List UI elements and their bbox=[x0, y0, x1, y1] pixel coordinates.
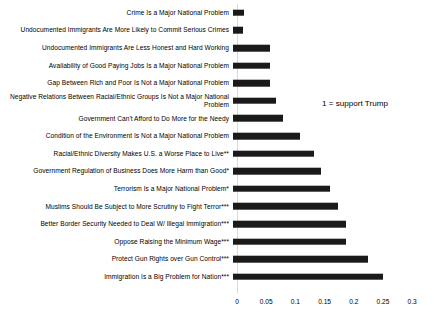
x-tick-label: 0.15 bbox=[318, 297, 331, 306]
bar bbox=[233, 203, 338, 210]
x-tick-label: 0.1 bbox=[291, 297, 300, 306]
category-label: Condition of the Environment Is Not a Ma… bbox=[0, 132, 233, 140]
bar-track bbox=[233, 250, 442, 268]
bar bbox=[233, 27, 243, 34]
chart-row: Availability of Good Paying Jobs Is a Ma… bbox=[0, 57, 442, 75]
category-label: Gap Between Rich and Poor Is Not a Major… bbox=[0, 79, 233, 87]
chart-row: Undocumented Immigrants Are More Likely … bbox=[0, 22, 442, 40]
chart-row: Undocumented Immigrants Are Less Honest … bbox=[0, 39, 442, 57]
bar bbox=[233, 97, 276, 104]
bar-track bbox=[233, 145, 442, 163]
bar-rows: Crime Is a Major National Problem Undocu… bbox=[0, 4, 442, 286]
bar-track bbox=[233, 127, 442, 145]
bar bbox=[233, 115, 283, 122]
chart-row: Condition of the Environment Is Not a Ma… bbox=[0, 127, 442, 145]
category-label: Better Border Security Needed to Deal W/… bbox=[0, 220, 233, 228]
category-label: Government Regulation of Business Does M… bbox=[0, 167, 233, 175]
bar bbox=[233, 221, 346, 228]
support-trump-annotation: 1 = support Trump bbox=[322, 99, 388, 109]
category-label: Muslims Should Be Subject to More Scruti… bbox=[0, 203, 233, 211]
bar bbox=[233, 238, 346, 245]
category-label: Protect Gun Rights over Gun Control*** bbox=[0, 255, 233, 263]
chart-row: Protect Gun Rights over Gun Control*** bbox=[0, 250, 442, 268]
category-label: Oppose Raising the Minimum Wage*** bbox=[0, 238, 233, 246]
bar-track bbox=[233, 22, 442, 40]
chart-row: Racial/Ethnic Diversity Makes U.S. a Wor… bbox=[0, 145, 442, 163]
bar bbox=[233, 10, 244, 17]
chart-row: Crime Is a Major National Problem bbox=[0, 4, 442, 22]
bar bbox=[233, 45, 270, 52]
category-label: Terrorism Is a Major National Problem* bbox=[0, 185, 233, 193]
x-tick-label: 0.05 bbox=[260, 297, 273, 306]
category-label: Government Can't Afford to Do More for t… bbox=[0, 115, 233, 123]
category-label: Racial/Ethnic Diversity Makes U.S. a Wor… bbox=[0, 150, 233, 158]
bar bbox=[233, 273, 383, 280]
bar-track bbox=[233, 162, 442, 180]
bar-track bbox=[233, 233, 442, 251]
bar-track bbox=[233, 57, 442, 75]
chart-row: Immigration Is a Big Problem for Nation*… bbox=[0, 268, 442, 286]
bar bbox=[233, 168, 321, 175]
bar-track bbox=[233, 180, 442, 198]
x-tick-label: 0.2 bbox=[349, 297, 358, 306]
bar-track bbox=[233, 39, 442, 57]
chart-row: Gap Between Rich and Poor Is Not a Major… bbox=[0, 74, 442, 92]
bar bbox=[233, 62, 270, 69]
x-tick-label: 0.25 bbox=[377, 297, 390, 306]
category-label: Negative Relations Between Racial/Ethnic… bbox=[0, 93, 233, 109]
bar bbox=[233, 256, 368, 263]
bar-track bbox=[233, 4, 442, 22]
bar-track bbox=[233, 215, 442, 233]
chart-row: Oppose Raising the Minimum Wage*** bbox=[0, 233, 442, 251]
bar-chart: Crime Is a Major National Problem Undocu… bbox=[0, 0, 442, 327]
bar-track bbox=[233, 268, 442, 286]
category-label: Undocumented Immigrants Are Less Honest … bbox=[0, 44, 233, 52]
bar-track bbox=[233, 110, 442, 128]
bar bbox=[233, 150, 314, 157]
bar bbox=[233, 133, 300, 140]
category-label: Undocumented Immigrants Are More Likely … bbox=[0, 26, 233, 34]
category-label: Availability of Good Paying Jobs Is a Ma… bbox=[0, 62, 233, 70]
chart-row: Government Can't Afford to Do More for t… bbox=[0, 110, 442, 128]
bar-track bbox=[233, 74, 442, 92]
bar bbox=[233, 80, 270, 87]
chart-row: Better Border Security Needed to Deal W/… bbox=[0, 215, 442, 233]
x-tick-label: 0 bbox=[235, 297, 239, 306]
x-axis: 0 0.05 0.1 0.15 0.2 0.25 0.3 bbox=[237, 294, 442, 314]
bar bbox=[233, 185, 330, 192]
category-label: Immigration Is a Big Problem for Nation*… bbox=[0, 273, 233, 281]
category-label: Crime Is a Major National Problem bbox=[0, 9, 233, 17]
chart-row: Terrorism Is a Major National Problem* bbox=[0, 180, 442, 198]
chart-row: Government Regulation of Business Does M… bbox=[0, 162, 442, 180]
x-tick-label: 0.3 bbox=[408, 297, 417, 306]
bar-track bbox=[233, 198, 442, 216]
chart-row: Muslims Should Be Subject to More Scruti… bbox=[0, 198, 442, 216]
